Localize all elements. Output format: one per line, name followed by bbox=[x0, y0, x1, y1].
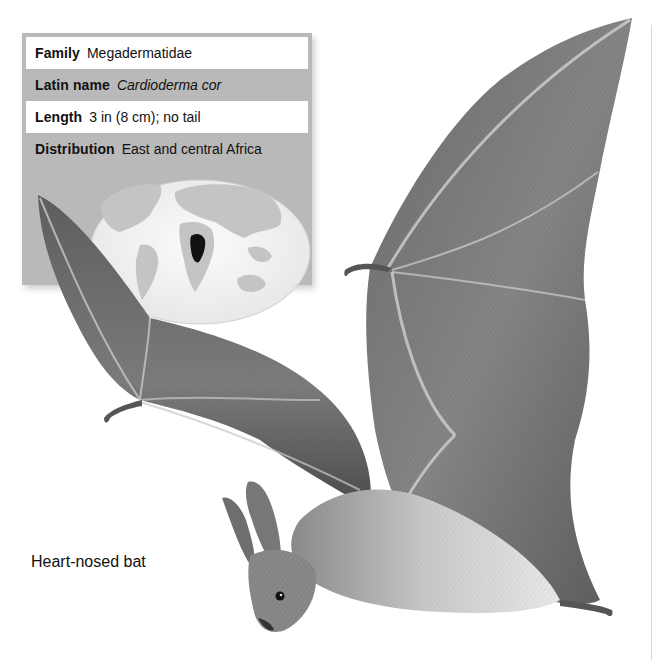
fact-value: Cardioderma cor bbox=[117, 77, 221, 93]
page-edge-divider bbox=[651, 25, 652, 660]
fact-label: Distribution bbox=[35, 141, 115, 157]
fact-value: 3 in (8 cm); no tail bbox=[89, 109, 200, 125]
fact-row-latin-name: Latin name Cardioderma cor bbox=[22, 69, 312, 101]
fact-row-distribution: Distribution East and central Africa bbox=[22, 133, 312, 165]
illustration-caption: Heart-nosed bat bbox=[31, 553, 146, 571]
bat-right-wing bbox=[344, 18, 632, 616]
fact-row-length: Length 3 in (8 cm); no tail bbox=[26, 101, 308, 133]
bat-eye bbox=[276, 592, 285, 601]
fact-value: East and central Africa bbox=[122, 141, 262, 157]
fact-value: Megadermatidae bbox=[87, 45, 192, 61]
fact-label: Family bbox=[35, 45, 80, 61]
fact-label: Length bbox=[35, 109, 82, 125]
fact-label: Latin name bbox=[35, 77, 110, 93]
bat-body bbox=[291, 490, 560, 613]
fact-box: Family Megadermatidae Latin name Cardiod… bbox=[22, 33, 312, 285]
bat-head bbox=[222, 482, 316, 632]
fact-row-family: Family Megadermatidae bbox=[26, 37, 308, 69]
